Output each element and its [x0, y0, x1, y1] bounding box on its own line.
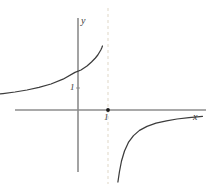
plot-canvas [0, 0, 217, 185]
curve-right-branch [118, 116, 203, 182]
curve-left-branch [0, 46, 102, 98]
hyperbola-figure: y x 1 1 [0, 0, 217, 185]
y-axis-tick-label-one: 1 [70, 83, 75, 92]
y-axis-label: y [81, 16, 85, 26]
x-axis-label: x [193, 112, 197, 122]
x-axis-tick-label-one: 1 [104, 113, 109, 122]
